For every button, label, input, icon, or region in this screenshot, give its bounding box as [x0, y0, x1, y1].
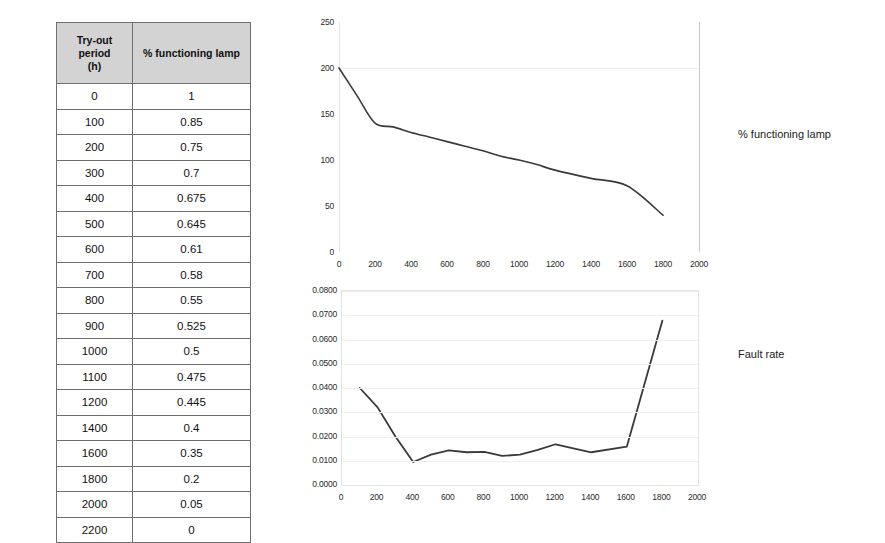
table-row: 6000.61 — [57, 237, 251, 263]
lamp-reliability-table: Try-out period (h) % functioning lamp 01… — [56, 22, 251, 543]
chart1-xtick: 1400 — [571, 259, 611, 269]
chart1-xtick: 600 — [427, 259, 467, 269]
cell-functioning: 0.7 — [133, 160, 251, 186]
chart2-ytick: 0.0700 — [296, 309, 337, 319]
chart1-ytick: 200 — [304, 63, 334, 73]
table-row: 4000.675 — [57, 186, 251, 212]
chart2-gridline — [342, 340, 698, 341]
chart1-xtick: 400 — [391, 259, 431, 269]
chart1-ytick: 50 — [304, 201, 334, 211]
table-row: 2000.75 — [57, 135, 251, 161]
chart1-ytick: 0 — [304, 247, 334, 257]
chart2-xtick: 0 — [321, 492, 361, 502]
cell-period: 1200 — [57, 390, 133, 416]
chart2-xtick: 800 — [463, 492, 503, 502]
cell-period: 2200 — [57, 517, 133, 543]
cell-period: 500 — [57, 211, 133, 237]
cell-functioning: 0.75 — [133, 135, 251, 161]
chart1-xtick: 1600 — [607, 259, 647, 269]
chart2-ytick: 0.0100 — [296, 455, 337, 465]
table-row: 9000.525 — [57, 313, 251, 339]
cell-period: 800 — [57, 288, 133, 314]
cell-period: 1600 — [57, 441, 133, 467]
chart2-gridline — [342, 437, 698, 438]
chart2-ytick: 0.0500 — [296, 358, 337, 368]
cell-functioning: 0.645 — [133, 211, 251, 237]
functioning-lamp-chart: 050100150200250 020040060080010001200140… — [296, 10, 726, 272]
chart2-gridline — [342, 315, 698, 316]
table-row: 14000.4 — [57, 415, 251, 441]
cell-period: 100 — [57, 109, 133, 135]
table-row: 16000.35 — [57, 441, 251, 467]
cell-period: 400 — [57, 186, 133, 212]
table-row: 7000.58 — [57, 262, 251, 288]
chart2-ytick: 0.0800 — [296, 285, 337, 295]
cell-functioning: 0.675 — [133, 186, 251, 212]
chart2-xtick: 1200 — [535, 492, 575, 502]
table-row: 1000.85 — [57, 109, 251, 135]
chart2-gridline — [342, 291, 698, 292]
cell-functioning: 0 — [133, 517, 251, 543]
chart2-xtick: 600 — [428, 492, 468, 502]
chart1-xtick: 1200 — [535, 259, 575, 269]
chart2-xtick: 200 — [357, 492, 397, 502]
fault-rate-chart: 0.00000.01000.02000.03000.04000.05000.06… — [296, 282, 726, 522]
header-line-1: Try-out — [60, 34, 129, 47]
cell-functioning: 0.5 — [133, 339, 251, 365]
chart1-series-line — [339, 22, 699, 252]
cell-period: 2000 — [57, 492, 133, 518]
cell-functioning: 0.2 — [133, 466, 251, 492]
chart1-ytick: 100 — [304, 155, 334, 165]
chart2-gridline — [342, 461, 698, 462]
table-row: 10000.5 — [57, 339, 251, 365]
chart1-legend-label: % functioning lamp — [738, 128, 831, 140]
chart2-xtick: 1600 — [606, 492, 646, 502]
chart2-ytick: 0.0400 — [296, 382, 337, 392]
chart2-plot-area — [341, 290, 699, 486]
cell-functioning: 0.61 — [133, 237, 251, 263]
column-header-functioning: % functioning lamp — [133, 23, 251, 84]
cell-period: 1800 — [57, 466, 133, 492]
cell-functioning: 0.85 — [133, 109, 251, 135]
chart2-ytick: 0.0300 — [296, 406, 337, 416]
table-row: 18000.2 — [57, 466, 251, 492]
table-row: 8000.55 — [57, 288, 251, 314]
chart1-ytick: 250 — [304, 17, 334, 27]
table-row: 22000 — [57, 517, 251, 543]
header-line-3: (h) — [60, 60, 129, 73]
chart2-xtick: 1400 — [570, 492, 610, 502]
chart2-xtick: 1800 — [641, 492, 681, 502]
cell-period: 900 — [57, 313, 133, 339]
chart2-legend-label: Fault rate — [738, 348, 784, 360]
cell-period: 1100 — [57, 364, 133, 390]
column-header-period: Try-out period (h) — [57, 23, 133, 84]
cell-period: 1400 — [57, 415, 133, 441]
cell-period: 0 — [57, 84, 133, 110]
chart1-xtick: 1000 — [499, 259, 539, 269]
chart2-gridline — [342, 388, 698, 389]
chart1-plot-area — [339, 22, 699, 252]
chart1-right-border — [699, 22, 700, 252]
cell-functioning: 0.05 — [133, 492, 251, 518]
cell-functioning: 0.58 — [133, 262, 251, 288]
table-row: 3000.7 — [57, 160, 251, 186]
cell-period: 200 — [57, 135, 133, 161]
cell-period: 1000 — [57, 339, 133, 365]
chart2-gridline — [342, 412, 698, 413]
table-body: 011000.852000.753000.74000.6755000.64560… — [57, 84, 251, 543]
table-row: 01 — [57, 84, 251, 110]
chart2-xtick: 2000 — [677, 492, 717, 502]
chart2-ytick: 0.0000 — [296, 479, 337, 489]
cell-functioning: 0.4 — [133, 415, 251, 441]
chart2-xtick: 1000 — [499, 492, 539, 502]
table-header-row: Try-out period (h) % functioning lamp — [57, 23, 251, 84]
cell-functioning: 0.475 — [133, 364, 251, 390]
chart1-ytick: 150 — [304, 109, 334, 119]
chart2-ytick: 0.0200 — [296, 431, 337, 441]
chart1-xtick: 1800 — [643, 259, 683, 269]
table-row: 12000.445 — [57, 390, 251, 416]
chart2-gridline — [342, 364, 698, 365]
table-row: 20000.05 — [57, 492, 251, 518]
cell-functioning: 0.525 — [133, 313, 251, 339]
chart1-xtick: 200 — [355, 259, 395, 269]
